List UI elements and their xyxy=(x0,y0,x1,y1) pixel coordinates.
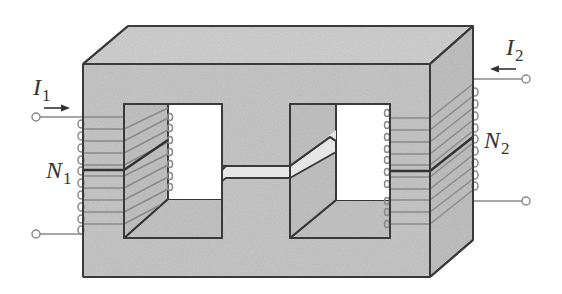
right-window-opening xyxy=(336,104,390,200)
core-right-face xyxy=(430,26,473,277)
primary-terminal-bottom xyxy=(32,230,40,238)
primary-current-label: I1 xyxy=(33,75,51,104)
right-window xyxy=(290,104,390,238)
secondary-current-arrow xyxy=(490,66,516,73)
left-window-opening xyxy=(168,104,222,200)
primary-current-arrow xyxy=(44,105,70,112)
core-top-face xyxy=(83,26,473,64)
transformer-svg xyxy=(0,0,562,294)
secondary-terminal-bottom xyxy=(522,197,530,205)
air-gap-front xyxy=(222,166,290,181)
secondary-current-label: I2 xyxy=(506,35,524,64)
left-window xyxy=(124,104,222,238)
transformer-diagram: I1 I2 N1 N2 xyxy=(0,0,562,294)
secondary-terminal-top xyxy=(522,75,530,83)
secondary-turns-label: N2 xyxy=(484,128,510,157)
primary-turns-label: N1 xyxy=(46,158,72,187)
primary-terminal-top xyxy=(32,113,40,121)
